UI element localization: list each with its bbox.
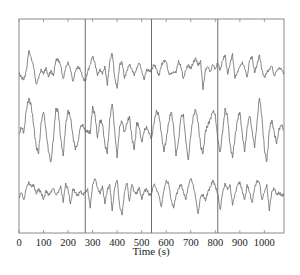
x-tick-label: 400 (109, 237, 125, 248)
x-tick-label: 800 (207, 237, 223, 248)
x-tick-label: 200 (60, 237, 76, 248)
trace-chart: 01002003004005006007008009001000 Time (s… (0, 0, 300, 275)
x-tick-label: 1000 (254, 237, 275, 248)
x-tick-label: 300 (85, 237, 101, 248)
x-axis-title: Time (s) (132, 245, 170, 258)
x-tick-label: 700 (183, 237, 199, 248)
x-tick-label: 0 (16, 237, 21, 248)
segment-dividers (85, 19, 218, 233)
x-tick-label: 100 (36, 237, 52, 248)
axis-ticks (19, 19, 264, 233)
x-tick-label: 900 (232, 237, 248, 248)
